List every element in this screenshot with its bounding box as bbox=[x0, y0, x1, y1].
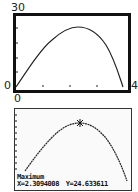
calc-readout: X=2.3094008 Y=24.633611 bbox=[17, 181, 108, 188]
bottom-graph-frame: Maximum X=2.3094008 Y=24.633611 bbox=[14, 108, 132, 191]
x-readout: X=2.3094008 bbox=[17, 180, 59, 188]
y-readout: Y=24.633611 bbox=[66, 180, 108, 188]
top-graph-plot bbox=[0, 0, 138, 100]
top-curve bbox=[16, 27, 123, 87]
